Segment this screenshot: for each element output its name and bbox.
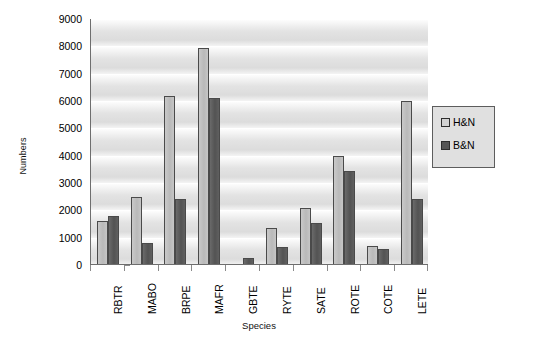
bar-group — [91, 19, 125, 265]
bar-mabo-bandn — [142, 243, 153, 265]
x-axis-title: Species — [90, 320, 428, 331]
bar-mafr-handn — [198, 48, 209, 265]
x-tick-mark — [327, 265, 328, 271]
bar-group — [192, 19, 226, 265]
y-axis-ticks: 0100020003000400050006000700080009000 — [40, 10, 88, 270]
bar-group — [328, 19, 362, 265]
bar-rbtr-handn — [97, 221, 108, 265]
bar-group — [294, 19, 328, 265]
bar-brpe-bandn — [175, 199, 186, 265]
bar-group — [159, 19, 193, 265]
y-tick-label: 3000 — [59, 177, 82, 189]
bar-lete-handn — [401, 101, 412, 265]
x-tick-label-rote: ROTE — [349, 285, 361, 314]
bar-sate-bandn — [311, 223, 322, 265]
legend-label: B&N — [453, 139, 475, 151]
bar-rote-handn — [333, 156, 344, 265]
y-tick-label: 6000 — [59, 95, 82, 107]
x-tick-label-brpe: BRPE — [180, 285, 192, 314]
x-tick-mark — [293, 265, 294, 271]
legend-label: H&N — [453, 116, 475, 128]
y-tick-label: 2000 — [59, 204, 82, 216]
x-axis-tick-labels: RBTRMABOBRPEMAFRGBTERYTESATEROTECOTELETE — [90, 272, 428, 316]
light-gray-swatch — [441, 118, 450, 127]
bar-ryte-handn — [266, 228, 277, 265]
y-axis-title: Numbers — [18, 20, 28, 120]
x-tick-label-sate: SATE — [315, 287, 327, 314]
x-tick-mark — [90, 265, 91, 271]
bar-group — [260, 19, 294, 265]
x-tick-label-lete: LETE — [416, 288, 428, 314]
bar-chart-figure: Numbers 01000200030004000500060007000800… — [0, 0, 533, 338]
legend-item: B&N — [441, 139, 494, 151]
bar-sate-handn — [300, 208, 311, 265]
y-tick-label: 4000 — [59, 150, 82, 162]
bar-brpe-handn — [164, 96, 175, 265]
y-tick-label: 8000 — [59, 40, 82, 52]
plot-area — [90, 19, 428, 265]
x-tick-label-mafr: MAFR — [213, 284, 225, 314]
x-tick-label-ryte: RYTE — [281, 286, 293, 314]
y-tick-label: 0 — [76, 259, 82, 271]
bar-series-container — [91, 19, 428, 265]
bar-cote-bandn — [378, 249, 389, 265]
bar-ryte-bandn — [277, 247, 288, 265]
bar-lete-bandn — [412, 199, 423, 265]
chart-legend: H&NB&N — [432, 106, 495, 168]
bar-cote-handn — [367, 246, 378, 265]
x-tick-mark — [225, 265, 226, 271]
y-axis-title-text: Numbers — [18, 106, 28, 206]
bar-group — [361, 19, 395, 265]
bar-rbtr-bandn — [108, 216, 119, 265]
bar-mabo-handn — [131, 197, 142, 265]
bar-group — [226, 19, 260, 265]
x-tick-mark — [158, 265, 159, 271]
legend-item: H&N — [441, 116, 494, 128]
dark-gray-swatch — [441, 141, 450, 150]
y-tick-label: 5000 — [59, 122, 82, 134]
x-tick-label-mabo: MABO — [146, 283, 158, 314]
x-tick-mark — [427, 265, 428, 271]
x-tick-label-rbtr: RBTR — [112, 285, 124, 314]
x-tick-mark — [191, 265, 192, 271]
y-tick-label: 9000 — [59, 13, 82, 25]
y-tick-label: 1000 — [59, 232, 82, 244]
x-tick-mark — [259, 265, 260, 271]
bar-mafr-bandn — [209, 98, 220, 265]
x-tick-label-cote: COTE — [382, 285, 394, 314]
bar-group — [395, 19, 429, 265]
y-tick-label: 7000 — [59, 68, 82, 80]
x-tick-label-gbte: GBTE — [247, 285, 259, 314]
bar-group — [125, 19, 159, 265]
bar-rote-bandn — [344, 171, 355, 265]
x-tick-mark — [360, 265, 361, 271]
x-tick-mark — [124, 265, 125, 271]
x-tick-mark — [394, 265, 395, 271]
